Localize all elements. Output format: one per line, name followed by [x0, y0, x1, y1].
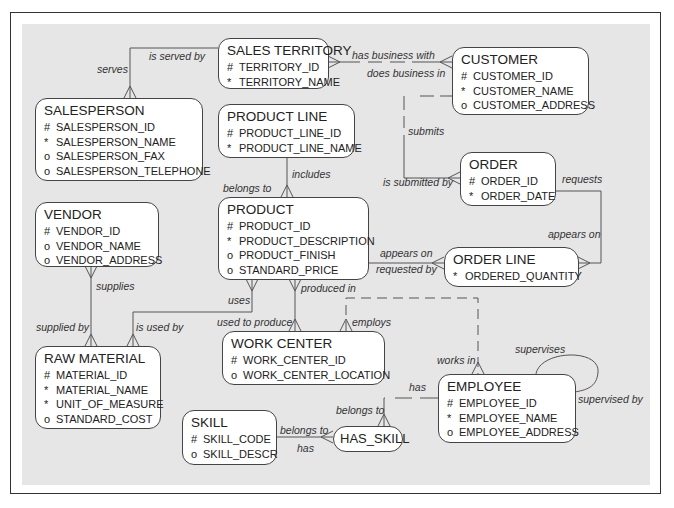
label-requests: requests	[562, 173, 602, 185]
attribute-employee-address: oEMPLOYEE_ADDRESS	[447, 425, 567, 440]
entity-title: VENDOR	[44, 207, 150, 223]
attribute-customer-id: #CUSTOMER_ID	[461, 69, 580, 84]
attribute-material-name: *MATERIAL_NAME	[44, 383, 152, 398]
label-submits: submits	[408, 125, 444, 137]
label-belongs-to-product-line: belongs to	[223, 182, 271, 194]
attribute-product-finish: oPRODUCT_FINISH	[227, 248, 360, 263]
attribute-employee-name: *EMPLOYEE_NAME	[447, 411, 567, 426]
entity-title: HAS_SKILL	[340, 431, 396, 447]
entity-product[interactable]: PRODUCT #PRODUCT_ID *PRODUCT_DESCRIPTION…	[218, 197, 369, 280]
entity-title: SALES TERRITORY	[227, 43, 320, 59]
entity-sales-territory[interactable]: SALES TERRITORY #TERRITORY_ID *TERRITORY…	[218, 38, 329, 89]
entity-title: CUSTOMER	[461, 52, 580, 68]
attribute-customer-address: oCUSTOMER_ADDRESS	[461, 98, 580, 113]
entity-raw-material[interactable]: RAW MATERIAL #MATERIAL_ID *MATERIAL_NAME…	[35, 346, 161, 429]
label-belongs-to-employee: belongs to	[336, 404, 384, 416]
label-has-employee: has	[409, 381, 426, 393]
attribute-product-line-id: #PRODUCT_LINE_ID	[227, 126, 346, 141]
entity-title: ORDER LINE	[453, 252, 570, 268]
label-supervises: supervises	[515, 343, 565, 355]
label-is-used-by: is used by	[136, 321, 183, 333]
entity-product-line[interactable]: PRODUCT LINE #PRODUCT_LINE_ID *PRODUCT_L…	[218, 104, 355, 158]
attribute-salesperson-telephone: oSALESPERSON_TELEPHONE	[44, 164, 194, 179]
label-employs: employs	[352, 316, 391, 328]
entity-title: EMPLOYEE	[447, 379, 567, 395]
label-is-served-by: is served by	[149, 50, 205, 62]
label-produced-in: produced in	[301, 282, 356, 294]
attribute-ordered-quantity: *ORDERED_QUANTITY	[453, 269, 570, 284]
label-is-submitted-by: is submitted by	[383, 176, 453, 188]
label-serves: serves	[97, 63, 128, 75]
attribute-standard-price: oSTANDARD_PRICE	[227, 263, 360, 278]
label-uses: uses	[228, 294, 250, 306]
label-requested-by: requested by	[376, 263, 437, 275]
attribute-vendor-name: oVENDOR_NAME	[44, 239, 150, 254]
entity-salesperson[interactable]: SALESPERSON #SALESPERSON_ID *SALESPERSON…	[35, 98, 203, 181]
entity-vendor[interactable]: VENDOR #VENDOR_ID oVENDOR_NAME oVENDOR_A…	[35, 202, 159, 267]
attribute-employee-id: #EMPLOYEE_ID	[447, 396, 567, 411]
label-has-skill-rel: has	[297, 442, 314, 454]
entity-title: PRODUCT	[227, 202, 360, 218]
attribute-order-id: #ORDER_ID	[469, 174, 547, 189]
attribute-work-center-id: #WORK_CENTER_ID	[231, 353, 376, 368]
attribute-unit-of-measure: *UNIT_OF_MEASURE	[44, 397, 152, 412]
attribute-salesperson-id: #SALESPERSON_ID	[44, 120, 194, 135]
label-supplied-by: supplied by	[36, 321, 89, 333]
attribute-material-id: #MATERIAL_ID	[44, 368, 152, 383]
attribute-product-line-name: *PRODUCT_LINE_NAME	[227, 141, 346, 156]
attribute-work-center-location: oWORK_CENTER_LOCATION	[231, 368, 376, 383]
label-appears-on-right: appears on	[548, 228, 601, 240]
attribute-standard-cost: oSTANDARD_COST	[44, 412, 152, 427]
attribute-product-description: *PRODUCT_DESCRIPTION	[227, 234, 360, 249]
attribute-customer-name: *CUSTOMER_NAME	[461, 84, 580, 99]
entity-title: PRODUCT LINE	[227, 109, 346, 125]
attribute-salesperson-name: *SALESPERSON_NAME	[44, 135, 194, 150]
entity-title: RAW MATERIAL	[44, 351, 152, 367]
entity-order[interactable]: ORDER #ORDER_ID *ORDER_DATE	[460, 152, 556, 206]
label-works-in: works in	[437, 354, 476, 366]
label-has-business-with: has business with	[352, 49, 435, 61]
label-used-to-produce: used to produce	[217, 316, 292, 328]
entity-has-skill[interactable]: HAS_SKILL	[333, 426, 403, 452]
entity-title: WORK CENTER	[231, 336, 376, 352]
entity-work-center[interactable]: WORK CENTER #WORK_CENTER_ID oWORK_CENTER…	[222, 331, 385, 385]
attribute-product-id: #PRODUCT_ID	[227, 219, 360, 234]
attribute-salesperson-fax: oSALESPERSON_FAX	[44, 149, 194, 164]
attribute-vendor-address: oVENDOR_ADDRESS	[44, 253, 150, 268]
entity-order-line[interactable]: ORDER LINE *ORDERED_QUANTITY	[444, 247, 579, 287]
attribute-skill-descr: oSKILL_DESCR	[191, 447, 268, 462]
attribute-territory-id: #TERRITORY_ID	[227, 60, 320, 75]
attribute-territory-name: *TERRITORY_NAME	[227, 75, 320, 90]
attribute-skill-code: #SKILL_CODE	[191, 432, 268, 447]
label-supervised-by: supervised by	[578, 393, 643, 405]
attribute-vendor-id: #VENDOR_ID	[44, 224, 150, 239]
entity-skill[interactable]: SKILL #SKILL_CODE oSKILL_DESCR	[182, 410, 277, 465]
label-supplies: supplies	[96, 280, 135, 292]
label-appears-on-left: appears on	[380, 247, 433, 259]
entity-title: SALESPERSON	[44, 103, 194, 119]
entity-title: SKILL	[191, 415, 268, 431]
attribute-order-date: *ORDER_DATE	[469, 189, 547, 204]
label-belongs-to-skill: belongs to	[280, 424, 328, 436]
label-includes: includes	[292, 168, 331, 180]
entity-employee[interactable]: EMPLOYEE #EMPLOYEE_ID *EMPLOYEE_NAME oEM…	[438, 374, 576, 443]
label-does-business-in: does business in	[367, 67, 445, 79]
entity-customer[interactable]: CUSTOMER #CUSTOMER_ID *CUSTOMER_NAME oCU…	[452, 47, 589, 115]
entity-title: ORDER	[469, 157, 547, 173]
